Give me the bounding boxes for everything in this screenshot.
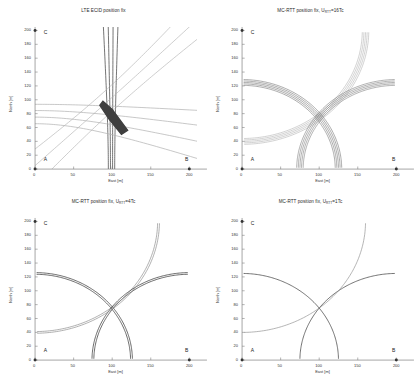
x-tick-label: 0 <box>25 363 43 368</box>
y-tick-label: 160 <box>222 246 238 251</box>
curve <box>38 224 160 334</box>
y-tick-label: 60 <box>222 125 238 130</box>
corner-label-b: B <box>185 156 188 162</box>
y-tick-label: 20 <box>222 152 238 157</box>
x-tick-label: 200 <box>387 172 405 177</box>
panel-title-main: LTE ECID position fix <box>81 8 125 13</box>
panel-title-main: MC-RTT position fix, U <box>277 8 324 13</box>
plot-svg <box>241 217 414 374</box>
y-tick-label: 120 <box>222 274 238 279</box>
curve-layer <box>37 224 187 359</box>
y-tick-label: 100 <box>222 288 238 293</box>
panel-title-tail: =1Tc <box>332 199 342 204</box>
x-axis-label: East [m] <box>241 178 404 183</box>
y-tick-label: 80 <box>15 302 31 307</box>
panel-mcrtt-16tc: MC-RTT position fix, URTT=16Tc 020406080… <box>207 8 414 194</box>
x-tick-label: 200 <box>180 363 198 368</box>
station-marker <box>34 359 37 362</box>
panel-title: MC-RTT position fix, URTT=1Tc <box>207 199 414 204</box>
y-tick-label: 200 <box>15 218 31 223</box>
curve <box>37 273 132 359</box>
plot-area <box>241 26 404 169</box>
y-tick-label: 40 <box>222 329 238 334</box>
station-marker <box>34 220 37 223</box>
curve <box>298 81 394 167</box>
station-marker <box>395 168 398 171</box>
y-tick-label: 100 <box>15 288 31 293</box>
y-tick-label: 20 <box>15 152 31 157</box>
panel-mcrtt-4tc: MC-RTT position fix, URTT=4Tc 0204060801… <box>0 199 207 385</box>
y-tick-label: 60 <box>15 316 31 321</box>
y-tick-label: 40 <box>15 138 31 143</box>
panel-lte-ecid: LTE ECID position fix 020406080100120140… <box>0 8 207 194</box>
x-tick-label: 100 <box>310 363 328 368</box>
y-tick-label: 180 <box>222 41 238 46</box>
plot-svg <box>241 26 414 183</box>
curve <box>244 81 340 167</box>
y-tick-label: 200 <box>222 27 238 32</box>
panel-title-main: MC-RTT position fix, U <box>279 199 326 204</box>
y-axis-label: North [m] <box>215 95 220 111</box>
curve <box>245 33 368 143</box>
corner-label-a: A <box>44 156 47 162</box>
y-tick-label: 160 <box>15 55 31 60</box>
x-tick-label: 100 <box>310 172 328 177</box>
corner-label-c: C <box>251 29 255 35</box>
y-tick-label: 160 <box>15 246 31 251</box>
curve <box>302 84 395 167</box>
corner-label-a: A <box>251 347 254 353</box>
x-tick-label: 150 <box>141 172 159 177</box>
x-axis-label: East [m] <box>34 369 197 374</box>
y-tick-label: 140 <box>15 260 31 265</box>
x-tick-label: 0 <box>232 172 250 177</box>
panel-title: LTE ECID position fix <box>0 8 207 13</box>
station-marker <box>34 29 37 32</box>
panel-title-sub: RTT <box>119 201 125 205</box>
station-marker <box>395 359 398 362</box>
curve <box>244 33 362 139</box>
x-tick-label: 100 <box>103 172 121 177</box>
plot-area <box>241 217 404 360</box>
curve <box>244 80 342 168</box>
x-tick-label: 200 <box>387 363 405 368</box>
corner-label-c: C <box>44 220 48 226</box>
x-tick-label: 50 <box>271 172 289 177</box>
y-tick-label: 180 <box>222 232 238 237</box>
corner-label-a: A <box>44 347 47 353</box>
y-tick-label: 120 <box>15 274 31 279</box>
curve <box>244 84 337 167</box>
curve <box>244 85 335 167</box>
y-tick-label: 20 <box>222 343 238 348</box>
curve <box>244 273 338 358</box>
curve <box>92 273 187 359</box>
panel-title: MC-RTT position fix, URTT=16Tc <box>207 8 414 13</box>
corner-label-c: C <box>44 29 48 35</box>
x-tick-label: 50 <box>271 363 289 368</box>
curve <box>38 224 158 332</box>
curve <box>37 274 131 358</box>
y-tick-label: 80 <box>222 111 238 116</box>
y-tick-label: 60 <box>222 316 238 321</box>
x-tick-label: 150 <box>141 363 159 368</box>
y-tick-label: 100 <box>15 97 31 102</box>
curve <box>300 273 394 358</box>
station-marker <box>241 220 244 223</box>
station-marker <box>241 29 244 32</box>
y-axis-label: North [m] <box>8 286 13 302</box>
y-tick-label: 140 <box>15 69 31 74</box>
panel-title: MC-RTT position fix, URTT=4Tc <box>0 199 207 204</box>
y-tick-label: 120 <box>222 83 238 88</box>
corner-label-b: B <box>392 156 395 162</box>
panel-title-main: MC-RTT position fix, U <box>72 199 119 204</box>
y-tick-label: 160 <box>222 55 238 60</box>
corner-label-a: A <box>251 156 254 162</box>
curve <box>244 82 338 167</box>
y-axis-label: North [m] <box>8 95 13 111</box>
x-axis-label: East [m] <box>34 178 197 183</box>
x-tick-label: 100 <box>103 363 121 368</box>
curve <box>94 274 188 358</box>
x-tick-label: 0 <box>232 363 250 368</box>
y-tick-label: 40 <box>222 138 238 143</box>
corner-label-c: C <box>251 220 255 226</box>
curve <box>245 33 369 145</box>
